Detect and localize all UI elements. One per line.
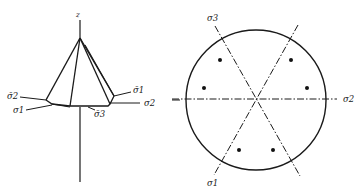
sigma-2-label: σ2: [144, 98, 155, 108]
stress-point: [289, 58, 293, 62]
stress-point: [237, 148, 241, 152]
sigma-2-label: σ2: [343, 94, 354, 104]
sigma-bar-3-label: σ̄3: [94, 109, 105, 119]
pyramid-edge: [85, 45, 114, 96]
deviatoric-plane-diagram: σ3 σ2 σ1: [172, 13, 354, 188]
yield-circle: [186, 30, 326, 170]
stress-point: [202, 86, 206, 90]
sigma-1-label: σ1: [207, 178, 218, 188]
sigma-1-axis: [214, 25, 298, 175]
sigma-bar-1-axis: [114, 92, 131, 96]
pyramid-diagram: z σ̄2 σ1 σ̄1 σ2 σ̄3: [7, 11, 180, 182]
sigma-bar-1-label: σ̄1: [133, 85, 144, 95]
z-axis-label: z: [75, 11, 80, 19]
sigma-1-label: σ1: [13, 105, 24, 115]
sigma-3-label: σ3: [207, 13, 218, 23]
stress-points: [202, 58, 309, 152]
stress-point: [218, 58, 222, 62]
stress-point: [271, 148, 275, 152]
sigma-bar-2-axis: [20, 97, 46, 100]
sigma-1-axis: [26, 105, 52, 110]
stress-point: [305, 86, 309, 90]
sigma-bar-2-label: σ̄2: [7, 91, 18, 101]
figure-canvas: z σ̄2 σ1 σ̄1 σ2 σ̄3 σ3 σ2 σ1: [0, 0, 361, 194]
sigma-3-axis: [215, 26, 300, 176]
pyramid-edge: [80, 38, 110, 104]
